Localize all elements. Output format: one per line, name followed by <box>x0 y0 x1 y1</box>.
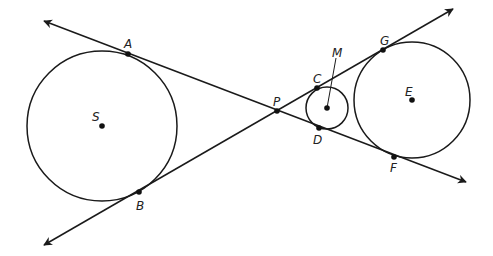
label-F: F <box>390 161 398 175</box>
label-P: P <box>273 95 281 109</box>
point-G <box>380 47 386 53</box>
label-M: M <box>332 46 343 60</box>
label-G: G <box>380 34 389 48</box>
label-D: D <box>313 133 322 147</box>
point-P <box>274 108 280 114</box>
label-B: B <box>136 199 144 213</box>
label-A: A <box>123 37 132 51</box>
point-C <box>314 85 320 91</box>
point-B <box>136 189 142 195</box>
label-C: C <box>313 72 322 86</box>
label-E: E <box>405 85 413 99</box>
label-S: S <box>92 110 100 124</box>
point-M <box>324 105 330 111</box>
geometry-diagram: A B S P C D M G E F <box>0 0 493 256</box>
line-APDF <box>44 21 466 182</box>
point-F <box>391 154 397 160</box>
M-leader-line <box>327 58 336 108</box>
point-D <box>316 125 322 131</box>
point-S <box>99 123 105 129</box>
point-A <box>125 51 131 57</box>
